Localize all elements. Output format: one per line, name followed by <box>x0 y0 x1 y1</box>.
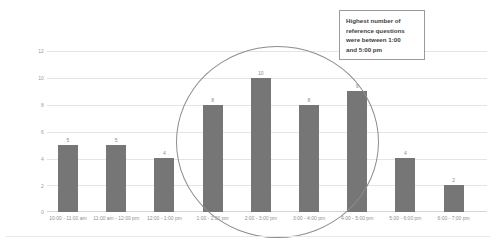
callout-line-4: and 5:00 pm <box>346 45 418 55</box>
y-tick-label: 4 <box>14 157 44 162</box>
callout-line-2: reference questions <box>346 26 418 36</box>
y-tick-label: 12 <box>14 49 44 54</box>
bar <box>395 158 415 212</box>
ellipse-annotation <box>176 46 379 238</box>
bar <box>154 158 174 212</box>
bar <box>106 145 126 212</box>
x-tick-label: 6:00 - 7:00 pm <box>419 216 489 221</box>
y-tick-label: 10 <box>14 76 44 81</box>
chart-screenshot: Average Number of Reference Questions 12… <box>0 0 496 250</box>
y-tick-label: 0 <box>14 210 44 215</box>
y-tick-label: 8 <box>14 103 44 108</box>
bar-value-label: 4 <box>149 151 179 156</box>
bar-chart: Average Number of Reference Questions 12… <box>0 0 496 250</box>
callout-textbox: Highest number of reference questions we… <box>339 10 425 60</box>
bar-value-label: 4 <box>390 151 420 156</box>
bar-value-label: 5 <box>101 138 131 143</box>
bar-value-label: 2 <box>439 178 469 183</box>
bar-value-label: 5 <box>53 138 83 143</box>
y-tick-label: 6 <box>14 130 44 135</box>
callout-line-3: were between 1:00 <box>346 35 418 45</box>
bar <box>58 145 78 212</box>
callout-line-1: Highest number of <box>346 16 418 26</box>
y-tick-label: 2 <box>14 184 44 189</box>
bar <box>444 185 464 212</box>
bottom-divider <box>6 236 490 237</box>
